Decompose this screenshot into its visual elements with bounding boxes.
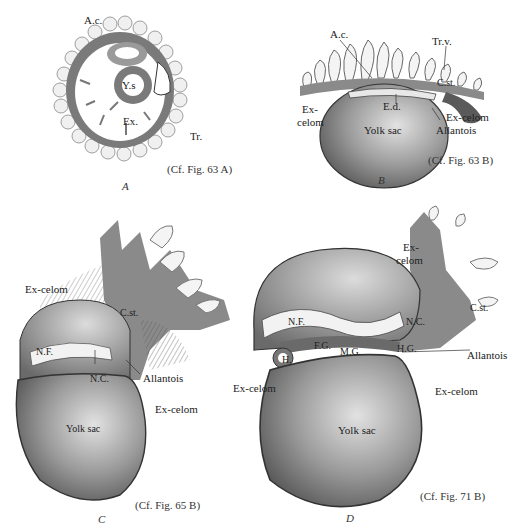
label-exocoelom-right-b: Ex-celom	[446, 112, 489, 123]
label-allantois-d: Allantois	[467, 350, 507, 361]
caption-d: (Cf. Fig. 71 B)	[420, 490, 485, 502]
label-exocoelom-top-d-1: Ex-	[403, 242, 419, 253]
label-allantois-c: Allantois	[143, 373, 183, 384]
label-foregut-d: F.G.	[314, 341, 331, 351]
label-hindgut-d: H.G.	[397, 344, 416, 354]
label-connecting-stalk-d: C.st.	[470, 303, 488, 313]
label-exocoelom-right-d: Ex-celom	[435, 386, 478, 397]
label-exocoelom-a: Ex.	[123, 116, 138, 127]
panel-letter-c: C	[98, 513, 105, 525]
panel-a-blastocyst	[53, 16, 187, 161]
label-midgut-d: M.G.	[340, 347, 361, 357]
label-allantois-b: Allantois	[436, 125, 476, 136]
panel-c-embryo	[16, 220, 230, 500]
label-yolk-sac-b: Yolk sac	[364, 125, 402, 136]
label-amniotic-cavity-b: A.c.	[330, 29, 348, 40]
label-yolk-sac-a: Y.s	[122, 80, 136, 91]
caption-b: (Cf. Fig. 63 B)	[428, 154, 493, 166]
label-neural-canal-c: N.C.	[90, 374, 109, 384]
label-neural-fold-d: N.F.	[288, 317, 305, 327]
label-trophoblast-a: Tr.	[190, 131, 202, 142]
label-amniotic-cavity-a: A.c.	[84, 15, 102, 26]
panel-letter-d: D	[346, 512, 354, 524]
label-exocoelom-left-b-2: celom	[297, 117, 324, 128]
caption-c: (Cf. Fig. 65 B)	[135, 499, 200, 511]
caption-a: (Cf. Fig. 63 A)	[167, 163, 232, 175]
label-embryonic-disc-b: E.d.	[383, 101, 401, 112]
label-exocoelom-top-d-2: celom	[396, 255, 423, 266]
label-trophoblast-villi-b: Tr.v.	[432, 36, 452, 47]
label-connecting-stalk-b: C.st.	[437, 78, 455, 88]
label-exocoelom-top-c: Ex-celom	[25, 284, 68, 295]
label-exocoelom-left-b-1: Ex-	[302, 104, 318, 115]
label-yolk-sac-d: Yolk sac	[338, 425, 376, 436]
label-yolk-sac-c: Yolk sac	[66, 424, 100, 434]
label-neural-canal-d: N.C.	[406, 317, 425, 327]
label-connecting-stalk-c: C.st.	[120, 308, 138, 318]
label-exocoelom-left-d: Ex-celom	[233, 383, 276, 394]
panel-letter-b: B	[378, 174, 385, 186]
panel-letter-a: A	[122, 180, 129, 192]
label-heart-d: H.	[282, 355, 292, 365]
label-exocoelom-right-c: Ex-celom	[155, 404, 198, 415]
label-neural-fold-c: N.F.	[36, 347, 53, 357]
